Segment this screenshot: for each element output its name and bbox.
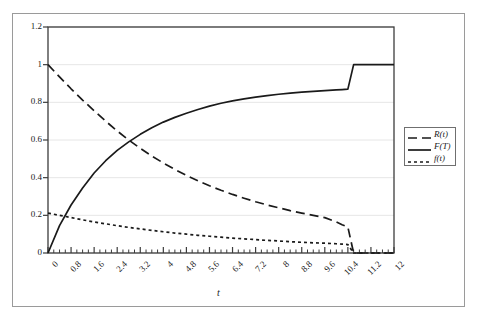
y-tick-label: 0.2 [8,209,42,219]
y-tick-label: 0.4 [8,172,42,182]
legend-label: F(T) [432,141,451,151]
legend-item[interactable]: F(T) [405,140,455,152]
y-tick-label: 0.6 [8,134,42,144]
series-line-rt [48,65,394,253]
legend-swatch-rt [407,129,432,139]
y-tick-label: 0.8 [8,96,42,106]
y-tick-label: 1.2 [8,21,42,31]
y-tick-label: 1 [8,59,42,69]
legend-label: R(t) [432,129,448,139]
legend-label: f(t) [432,153,445,163]
legend-swatch-ft [407,153,432,163]
legend-swatch-ft [407,141,432,151]
x-axis-title: t [217,287,220,298]
legend-item[interactable]: R(t) [405,128,455,140]
chart-legend: R(t)F(T)f(t) [404,127,456,166]
legend-item[interactable]: f(t) [405,152,455,164]
series-line-ft [48,213,394,253]
gridlines [48,27,394,253]
chart-figure: 00.20.40.60.811.2 00.81.62.43.244.85.66.… [0,0,481,322]
y-tick-label: 0 [8,247,42,257]
data-series-group [48,65,394,253]
